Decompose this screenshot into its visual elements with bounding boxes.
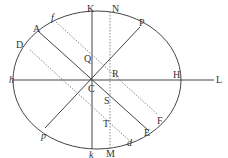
label-P: P [139, 17, 145, 28]
label-T: T [103, 118, 109, 129]
label-A: A [33, 23, 41, 34]
label-M: M [106, 148, 115, 158]
ellipse-diagram: K N P f A D h Q R H L C S T p k M d E F [0, 0, 228, 158]
label-F: F [157, 115, 163, 126]
label-C: C [88, 83, 95, 94]
label-S: S [104, 95, 110, 106]
label-N: N [112, 3, 119, 14]
label-R: R [112, 68, 119, 79]
label-D: D [16, 39, 23, 50]
label-k: k [89, 149, 94, 158]
label-L: L [216, 74, 222, 85]
label-E: E [144, 127, 150, 138]
diameter-AE [38, 31, 149, 131]
label-h: h [9, 74, 14, 85]
label-p: p [40, 130, 46, 141]
label-H: H [173, 69, 180, 80]
label-f: f [51, 12, 55, 23]
label-K: K [87, 3, 95, 14]
label-Q: Q [84, 53, 92, 64]
